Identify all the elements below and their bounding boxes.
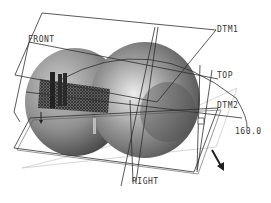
datum-marker[interactable] <box>198 118 204 124</box>
datum-label-front[interactable]: FRONT <box>28 36 55 44</box>
datum-label-dtm2[interactable]: DTM2 <box>217 102 238 110</box>
datum-label-right[interactable]: RIGHT <box>132 178 159 186</box>
datum-label-dtm1[interactable]: DTM1 <box>217 26 238 34</box>
arrow-down-right-icon[interactable] <box>212 150 224 171</box>
cad-3d-viewport[interactable]: FRONT DTM1 TOP DTM2 RIGHT 160.0 <box>0 0 271 203</box>
datum-label-top[interactable]: TOP <box>217 72 233 80</box>
dimension-value[interactable]: 160.0 <box>235 128 262 136</box>
